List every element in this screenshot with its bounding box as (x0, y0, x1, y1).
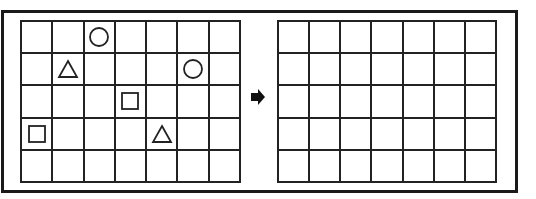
triangle-icon (151, 123, 173, 145)
grid-cell[interactable] (435, 86, 466, 118)
grid-cell[interactable] (310, 119, 341, 151)
grid-cell[interactable] (466, 151, 497, 183)
grid-cell[interactable] (435, 119, 466, 151)
grid-cell (85, 86, 116, 118)
grid-cell[interactable] (404, 86, 435, 118)
grid-cell (22, 151, 53, 183)
grid-cell (210, 22, 241, 54)
grid-cell (53, 119, 84, 151)
grid-cell (210, 54, 241, 86)
grid-cell[interactable] (404, 54, 435, 86)
grid-cell (116, 54, 147, 86)
grid-cell[interactable] (404, 151, 435, 183)
grid-cell[interactable] (310, 151, 341, 183)
grid-cell (210, 86, 241, 118)
grid-cell[interactable] (466, 119, 497, 151)
grid-cell (178, 54, 209, 86)
grid-cell[interactable] (435, 54, 466, 86)
grid-cell[interactable] (435, 151, 466, 183)
grid-cell[interactable] (435, 22, 466, 54)
triangle-icon (57, 58, 79, 80)
grid-cell[interactable] (404, 22, 435, 54)
grid-cell (53, 22, 84, 54)
grid-cell (53, 54, 84, 86)
circle-icon (182, 58, 204, 80)
grid-cell (147, 151, 178, 183)
grid-cell[interactable] (279, 22, 310, 54)
grid-cell[interactable] (341, 86, 372, 118)
grid-cell (147, 86, 178, 118)
grid-cell (22, 22, 53, 54)
grid-cell[interactable] (310, 22, 341, 54)
grid-cell (210, 119, 241, 151)
grid-cell[interactable] (372, 22, 403, 54)
grid-cell (53, 151, 84, 183)
grid-cell[interactable] (372, 54, 403, 86)
arrow-right-icon (250, 89, 266, 105)
grid-cell (22, 86, 53, 118)
grid-cell (22, 119, 53, 151)
grid-cell[interactable] (341, 22, 372, 54)
grid-cell[interactable] (404, 119, 435, 151)
grid-cell[interactable] (279, 54, 310, 86)
grid-cell (178, 22, 209, 54)
grid-cell (178, 119, 209, 151)
square-icon (119, 90, 141, 112)
grid-cell[interactable] (341, 54, 372, 86)
circle-icon (88, 26, 110, 48)
grid-cell (178, 151, 209, 183)
grid-cell (85, 54, 116, 86)
grid-cell (210, 151, 241, 183)
square-icon (26, 123, 48, 145)
grid-cell[interactable] (341, 119, 372, 151)
grid-cell[interactable] (372, 119, 403, 151)
grid-cell[interactable] (279, 119, 310, 151)
grid-cell (178, 86, 209, 118)
grid-cell (116, 22, 147, 54)
grid-cell (147, 119, 178, 151)
grid-cell[interactable] (279, 151, 310, 183)
grid-cell[interactable] (466, 54, 497, 86)
grid-cell[interactable] (310, 86, 341, 118)
grid-cell (116, 119, 147, 151)
grid-cell (53, 86, 84, 118)
grid-cell[interactable] (372, 86, 403, 118)
source-grid (20, 20, 241, 183)
grid-cell (147, 22, 178, 54)
grid-cell[interactable] (372, 151, 403, 183)
grid-cell (85, 119, 116, 151)
grid-cell[interactable] (341, 151, 372, 183)
grid-cell[interactable] (466, 86, 497, 118)
grid-cell (85, 151, 116, 183)
grid-cell (22, 54, 53, 86)
grid-cell (147, 54, 178, 86)
grid-cell (116, 86, 147, 118)
grid-cell[interactable] (310, 54, 341, 86)
grid-cell (116, 151, 147, 183)
grid-cell (85, 22, 116, 54)
grid-cell[interactable] (466, 22, 497, 54)
grid-cell[interactable] (279, 86, 310, 118)
target-grid (277, 20, 497, 183)
